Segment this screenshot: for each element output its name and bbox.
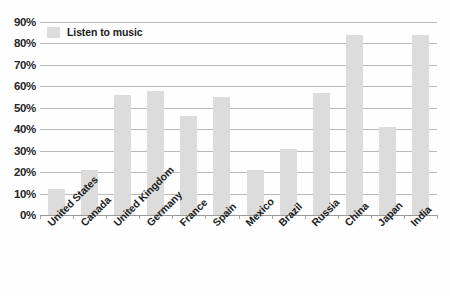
y-axis-tick-label: 0% — [0, 209, 36, 221]
x-axis-labels: United StatesCanadaUnited KingdomGermany… — [40, 216, 437, 294]
y-axis-tick-label: 30% — [0, 145, 36, 157]
bar — [213, 97, 230, 215]
x-axis-tick — [437, 215, 438, 219]
y-axis-tick-label: 10% — [0, 188, 36, 200]
y-axis-tick-label: 60% — [0, 80, 36, 92]
y-axis-tick-label: 20% — [0, 166, 36, 178]
bar — [346, 35, 363, 215]
legend-label-listen-to-music: Listen to music — [67, 26, 143, 38]
bar-chart: 0%10%20%30%40%50%60%70%80%90% United Sta… — [0, 0, 450, 296]
y-axis-tick-label: 40% — [0, 123, 36, 135]
bars — [40, 22, 437, 215]
bar — [412, 35, 429, 215]
bar — [114, 95, 131, 215]
legend-swatch-listen-to-music — [47, 27, 60, 38]
y-axis-labels: 0%10%20%30%40%50%60%70%80%90% — [0, 22, 36, 215]
y-axis-tick-label: 90% — [0, 16, 36, 28]
bar — [313, 93, 330, 215]
y-axis-tick-label: 80% — [0, 37, 36, 49]
plot-area — [40, 22, 437, 215]
y-axis-tick-label: 50% — [0, 102, 36, 114]
y-axis-tick-label: 70% — [0, 59, 36, 71]
chart-legend: Listen to music — [47, 26, 143, 38]
